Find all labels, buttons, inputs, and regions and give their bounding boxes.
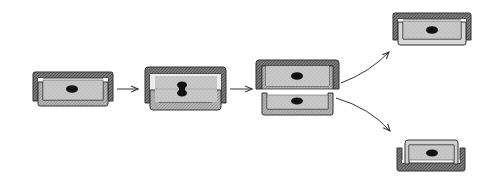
arrow-4-down bbox=[336, 98, 390, 131]
nucleus bbox=[291, 72, 303, 80]
daughter-cell-large bbox=[393, 13, 471, 45]
parent-cell bbox=[33, 72, 113, 106]
nucleus bbox=[291, 98, 303, 105]
nucleus bbox=[426, 26, 438, 34]
dividing-cell bbox=[145, 67, 226, 110]
daughter-cell-small bbox=[397, 140, 465, 171]
separating-cells bbox=[256, 60, 339, 115]
nucleus bbox=[66, 85, 78, 93]
nucleus bbox=[426, 150, 438, 157]
cell-division-diagram bbox=[0, 0, 484, 190]
lower-daughter bbox=[262, 93, 333, 115]
arrow-3-up bbox=[341, 52, 389, 83]
upper-daughter bbox=[256, 60, 339, 89]
